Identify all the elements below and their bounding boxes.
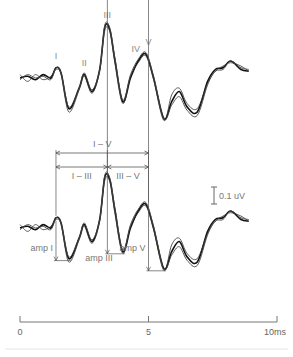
amp-label-III: amp III (85, 253, 113, 263)
waveform-trace-2 (20, 27, 249, 121)
interval-label-III-V: III – V (116, 171, 140, 181)
amp-label-I: amp I (30, 243, 53, 253)
x-tick-label-10: 10ms (264, 327, 287, 337)
scale-bar-label: 0.1 uV (219, 191, 245, 201)
abr-waveform-figure: IIIIIIIVV I – VI – IIIIII – Vamp Iamp II… (0, 0, 293, 357)
x-tick-label-5: 5 (146, 327, 151, 337)
upper-panel: IIIIIIIVV (20, 10, 249, 121)
peak-label-I: I (55, 51, 58, 61)
x-tick-label-0: 0 (17, 327, 22, 337)
interval-label-I-III: I – III (72, 171, 92, 181)
interval-label-I-V: I – V (93, 139, 112, 149)
scale-bar: 0.1 uV (211, 187, 245, 204)
time-axis: 0510ms (17, 316, 286, 337)
amp-label-V: amp V (119, 243, 145, 253)
peak-label-IV: IV (131, 44, 140, 54)
peak-label-II: II (82, 58, 87, 68)
